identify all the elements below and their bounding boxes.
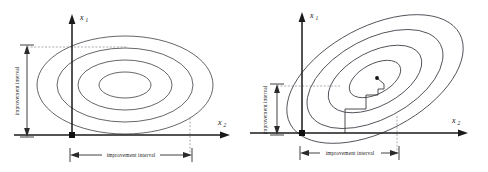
y-axis-label-subscript: 1 [85, 17, 88, 23]
contour-group [266, 0, 484, 170]
origin-marker-icon [299, 130, 305, 136]
contour-ring-outer [37, 36, 213, 134]
figure-root: improvement interval improvement interva… [0, 0, 488, 172]
vertical-improvement-interval: improvement interval [14, 45, 34, 137]
panel-right-rotated-contours: improvement interval improvement interva… [244, 0, 488, 172]
vertical-improvement-interval-label: improvement interval [14, 66, 20, 115]
x-axis-label: x 2 [451, 116, 460, 126]
horizontal-improvement-interval-label: improvement interval [107, 152, 156, 158]
x-axis-label-subscript: 2 [223, 122, 226, 128]
x-axis-label-base: x [451, 116, 456, 125]
vertical-dim-arrow-top-icon [274, 84, 280, 93]
contour-ring-inner [99, 72, 151, 98]
horizontal-dim-arrow-left-icon [70, 152, 79, 158]
vertical-improvement-interval-label: improvement interval [262, 85, 268, 134]
contour-ring-3 [291, 9, 459, 149]
horizontal-improvement-interval: improvement interval [300, 146, 399, 160]
contour-ring-2 [317, 31, 432, 127]
x-axis-label-base: x [217, 118, 222, 127]
vertical-dim-arrow-top-icon [24, 45, 30, 54]
vertical-improvement-interval: improvement interval [262, 84, 284, 135]
x-axis-label-subscript: 2 [457, 120, 460, 126]
contour-ring-2 [78, 60, 172, 110]
y-axis-arrow-icon [69, 14, 76, 24]
x-axis-arrow-icon [458, 130, 468, 137]
y-axis-label-subscript: 1 [315, 15, 318, 21]
x-axis-arrow-icon [220, 132, 230, 139]
contour-ring-outer [266, 0, 484, 170]
horizontal-dim-arrow-left-icon [300, 150, 309, 156]
horizontal-dim-arrow-right-icon [390, 150, 399, 156]
horizontal-improvement-interval: improvement interval [70, 148, 192, 162]
coordinate-descent-staircase-path [345, 78, 384, 133]
y-axis-label: x 1 [309, 11, 318, 21]
contour-ring-3 [57, 48, 193, 122]
y-axis-arrow-icon [299, 12, 306, 22]
y-axis-label-base: x [79, 13, 84, 22]
y-axis-label: x 1 [79, 13, 88, 23]
horizontal-dim-arrow-right-icon [183, 152, 192, 158]
contour-group [37, 36, 213, 134]
optimum-point-marker-icon [375, 76, 379, 80]
y-axis-label-base: x [309, 11, 314, 20]
panel-left-axis-aligned: improvement interval improvement interva… [0, 0, 244, 172]
horizontal-improvement-interval-label: improvement interval [326, 150, 375, 156]
origin-marker-icon [69, 132, 75, 138]
x-axis-label: x 2 [217, 118, 226, 128]
